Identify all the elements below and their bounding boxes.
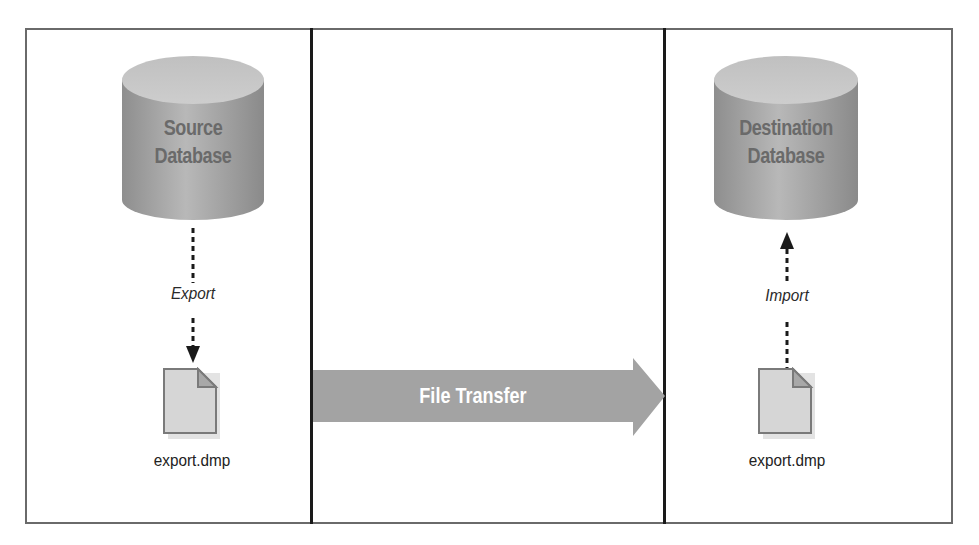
import-label: Import	[733, 286, 841, 306]
file-icon	[162, 367, 222, 439]
left-divider	[310, 28, 313, 524]
source-file-label: export.dmp	[129, 451, 255, 471]
source-database: Source Database	[118, 52, 268, 222]
source-database-label-line1: Source	[132, 114, 255, 142]
file-transfer-label: File Transfer	[342, 383, 604, 409]
source-database-label-line2: Database	[132, 142, 255, 170]
right-divider	[663, 28, 666, 524]
export-label: Export	[139, 284, 247, 304]
destination-database-label-line1: Destination	[724, 114, 849, 142]
destination-file-label: export.dmp	[724, 451, 850, 471]
destination-database-label-line2: Database	[724, 142, 849, 170]
file-icon	[757, 367, 817, 439]
destination-database: Destination Database	[710, 52, 862, 222]
